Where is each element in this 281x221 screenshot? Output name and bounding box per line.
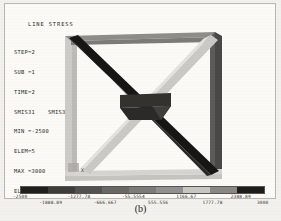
truss-graphics-viewport: X <box>57 24 232 184</box>
plot-frame: LINE STRESS STEP=2 SUB =1 TIME=2 SMIS31S… <box>4 3 276 199</box>
axis-triad-marker: X <box>68 163 84 173</box>
contour-band-3 <box>75 187 102 193</box>
tick-label-upper-1: -2500 <box>13 194 27 199</box>
contour-band-8 <box>210 187 237 193</box>
contour-color-bar <box>20 186 265 194</box>
contour-band-5 <box>129 187 156 193</box>
figure-caption: (b) <box>0 203 281 214</box>
member-top-chord <box>65 32 215 45</box>
contour-band-2 <box>48 187 75 193</box>
legend-smis-a: SMIS31 <box>14 109 35 115</box>
contour-band-9 <box>237 187 264 193</box>
axis-marker-label: X <box>81 167 84 173</box>
member-left-chord <box>65 36 77 176</box>
contour-band-6 <box>156 187 183 193</box>
truss-svg: X <box>57 24 232 184</box>
member-right-chord <box>210 32 222 174</box>
tick-label-upper-5: 2388.89 <box>231 194 251 199</box>
contour-band-1 <box>21 187 48 193</box>
contour-band-4 <box>102 187 129 193</box>
member-center-horizontal <box>120 93 171 120</box>
tick-label-upper-3: -55.5554 <box>122 194 145 199</box>
tick-label-upper-4: 1166.67 <box>176 194 196 199</box>
tick-label-upper-2: -1277.78 <box>67 194 90 199</box>
contour-band-7 <box>183 187 210 193</box>
